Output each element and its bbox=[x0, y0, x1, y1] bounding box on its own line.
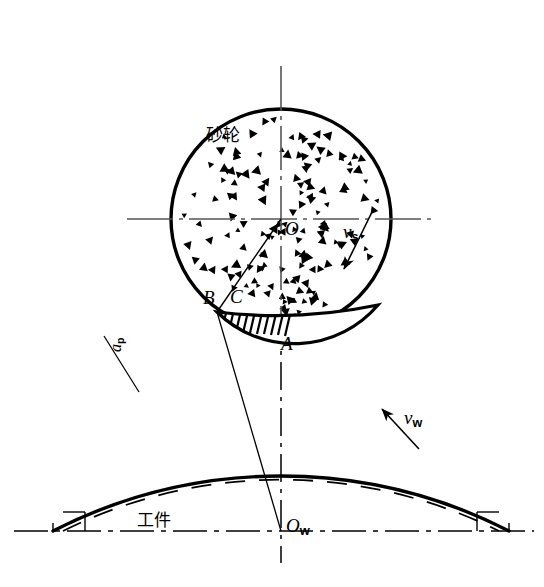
grinding-wheel-label: 砂轮 bbox=[206, 127, 240, 144]
workpiece-center-subscript: w bbox=[300, 523, 310, 538]
depth-of-cut-label: ap bbox=[108, 338, 124, 352]
workpiece-speed-subscript: w bbox=[412, 416, 422, 430]
workpiece-center-letter: O bbox=[286, 515, 300, 536]
radius-line-b-to-ow bbox=[217, 312, 281, 531]
workpiece-label: 工件 bbox=[137, 512, 171, 529]
depth-of-cut-subscript: p bbox=[114, 338, 126, 344]
figure-canvas: 砂轮 工件 O Ow A B C vs vw ap bbox=[0, 0, 544, 587]
point-b-label: B bbox=[203, 288, 215, 307]
point-c-label: C bbox=[230, 287, 243, 306]
workpiece-speed-label: vw bbox=[404, 408, 422, 427]
grinding-diagram-svg bbox=[0, 0, 544, 587]
point-a-label: A bbox=[281, 334, 293, 353]
depth-of-cut-symbol: a bbox=[107, 344, 124, 352]
wheel-speed-subscript: s bbox=[351, 230, 358, 244]
wheel-center-label: O bbox=[285, 219, 299, 238]
wheel-speed-label: vs bbox=[343, 222, 358, 241]
workpiece-center-label: Ow bbox=[286, 516, 310, 535]
